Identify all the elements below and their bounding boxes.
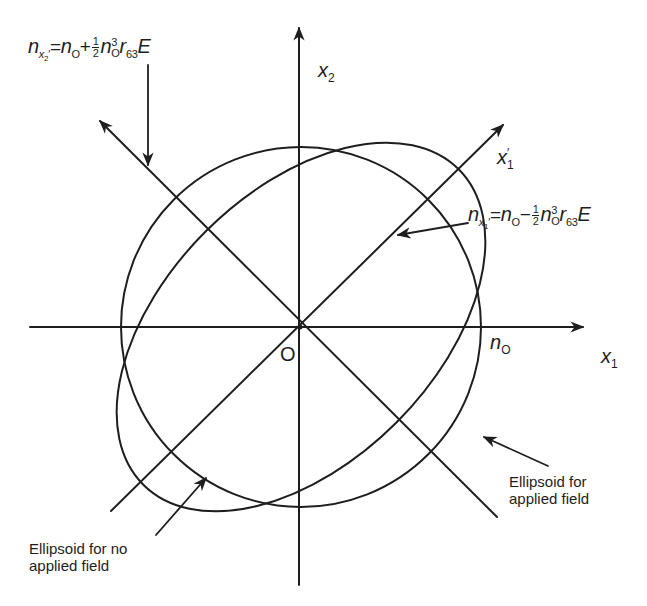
equation-n-x1-prime: nx1′=nO−12n3Or63E [468,204,591,231]
diagram-canvas [0,0,647,606]
caption-no-applied-field: Ellipsoid for no applied field [29,540,127,574]
origin-dot [298,325,303,330]
eq-top-n03-var: n [100,35,111,57]
x1p-var: x [497,146,507,168]
x2-axis-label: x2 [318,60,335,84]
eq-right-equals: = [490,204,501,225]
n0-sub: O [501,343,510,357]
origin-text: O [280,343,296,365]
x1-prime-axis-label: x′1 [497,147,514,171]
eq-right-n03-var: n [540,203,551,225]
eq-right-supsub: 3O [551,205,559,227]
eq-top-equals: = [50,36,61,57]
eq-top-supsub: 3O [111,37,119,59]
n0-intercept-label: nO [490,332,510,356]
eq-right-minus: − [520,204,531,225]
x2-sub: 2 [328,71,335,85]
caption-applied-field: Ellipsoid for applied field [509,473,589,507]
callout-arrow-no-applied [156,478,206,535]
equation-n-x2-prime: nx2′=nO+12n3Or63E [28,36,151,63]
eq-right-fraction: 12 [532,204,540,227]
eq-top-frac-den: 2 [93,48,99,59]
caption-applied-line1: Ellipsoid for [509,473,589,490]
eq-top-n0-sub: O [72,48,80,60]
eq-top-n0-var: n [61,35,72,57]
origin-label: O [280,344,296,364]
x1p-sub: 1 [507,159,514,171]
eq-right-n0-sub: O [512,216,520,228]
eq-right-r-sub: 63 [566,216,578,228]
eq-right-frac-den: 2 [533,216,539,227]
diagram-stage: nx2′=nO+12n3Or63E nx1′=nO−12n3Or63E x2 x… [0,0,647,606]
eq-right-field: E [578,203,591,225]
caption-applied-line2: applied field [509,490,589,507]
x1-sub: 1 [611,357,618,371]
caption-no-applied-line1: Ellipsoid for no [29,540,127,557]
x2-var: x [318,59,328,81]
eq-right-n0-var: n [501,203,512,225]
eq-top-n03-sub: O [111,48,119,59]
x1-prime-axis [111,125,503,511]
caption-no-applied-line2: applied field [29,557,127,574]
eq-right-n03-sub: O [551,216,559,227]
eq-top-field: E [138,35,151,57]
eq-top-plus: + [80,36,91,57]
eq-top-r-sub: 63 [126,48,138,60]
x1p-supsub: ′1 [507,147,514,171]
eq-top-lhs-var: n [28,35,39,57]
callout-arrow-right [398,223,468,235]
eq-top-fraction: 12 [92,36,100,59]
n0-var: n [490,331,501,353]
callout-arrow-applied [484,437,548,466]
x1-axis-label: x1 [601,346,618,370]
eq-right-lhs-var: n [468,203,479,225]
x1-var: x [601,345,611,367]
